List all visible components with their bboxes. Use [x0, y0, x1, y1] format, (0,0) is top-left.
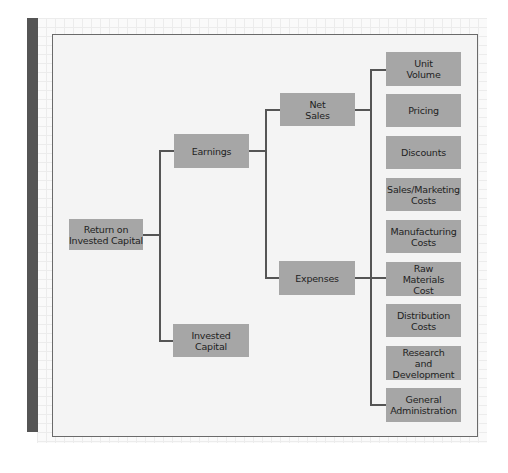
node-manufacturing-costs: Manufacturing Costs [386, 220, 461, 253]
node-expenses: Expenses [279, 261, 355, 295]
connector-to-earnings [159, 150, 174, 152]
connector-root-to-trunk [143, 234, 160, 236]
connector-to-invested-capital [159, 340, 174, 342]
node-invested-capital: Invested Capital [173, 324, 249, 357]
connector-trunk-level1 [159, 150, 161, 341]
connector-to-general-administration [370, 404, 386, 406]
node-pricing: Pricing [386, 94, 461, 127]
node-earnings: Earnings [174, 134, 249, 168]
node-distribution-costs: Distribution Costs [386, 304, 461, 337]
node-general-administration: General Administration [386, 388, 461, 422]
connector-net-sales-to-trunk [355, 109, 371, 111]
node-sales-marketing-costs: Sales/Marketing Costs [386, 178, 461, 211]
connector-to-unit-volume [370, 69, 386, 71]
node-raw-materials-cost: Raw Materials Cost [386, 262, 461, 296]
node-discounts: Discounts [386, 136, 461, 169]
side-accent-bar [27, 18, 38, 432]
connector-to-expenses [265, 277, 280, 279]
connector-trunk-level2 [265, 109, 267, 278]
node-unit-volume: Unit Volume [386, 52, 461, 86]
connector-earnings-to-trunk [249, 150, 266, 152]
node-net-sales: Net Sales [280, 93, 355, 126]
connector-trunk-level3 [370, 69, 372, 405]
node-return-on-invested-capital: Return on Invested Capital [69, 219, 143, 250]
node-research-and-development: Research and Development [386, 346, 461, 380]
connector-to-net-sales [265, 109, 280, 111]
